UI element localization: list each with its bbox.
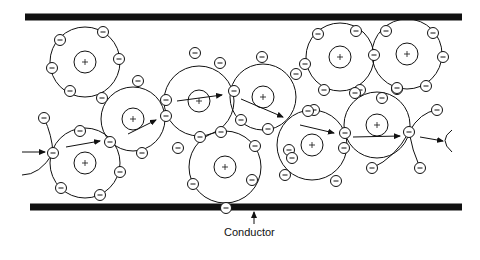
electron-flow-diagram: [0, 0, 480, 260]
electron: [381, 26, 392, 37]
electron: [188, 179, 199, 190]
electron: [190, 48, 201, 59]
electron: [215, 58, 226, 69]
electron: [236, 115, 247, 126]
electron: [392, 83, 403, 94]
electron: [247, 175, 258, 186]
electron: [340, 128, 351, 139]
electron: [331, 176, 342, 187]
electron: [39, 113, 50, 124]
electron: [65, 86, 76, 97]
electron: [303, 106, 314, 117]
electron: [404, 127, 415, 138]
electron: [367, 163, 378, 174]
electron: [421, 81, 432, 92]
electron: [55, 35, 66, 46]
electron: [432, 105, 443, 116]
electron: [250, 141, 261, 152]
free-electron-path: [22, 118, 53, 175]
flow-arrow: [353, 136, 400, 137]
free-electron-path: [372, 132, 409, 168]
flow-arrow: [66, 141, 100, 147]
electron: [350, 88, 361, 99]
electron: [377, 93, 388, 104]
electron: [291, 69, 302, 80]
electron: [105, 137, 116, 148]
electron: [415, 163, 426, 174]
electron: [97, 93, 108, 104]
partial-atom-arc: [445, 130, 452, 152]
electron: [313, 29, 324, 40]
electron: [56, 183, 67, 194]
electron: [216, 127, 227, 138]
electron: [95, 190, 106, 201]
electron: [221, 203, 232, 214]
flow-arrow: [420, 137, 443, 141]
electron: [263, 124, 274, 135]
electron: [229, 86, 240, 97]
electron: [161, 95, 172, 106]
electron: [47, 63, 58, 74]
electron: [280, 170, 291, 181]
electron: [257, 52, 268, 63]
atoms-layer: [50, 19, 442, 203]
electron: [319, 85, 330, 96]
electron: [114, 54, 125, 65]
conductor-walls: [25, 14, 462, 211]
conductor-label: Conductor: [224, 226, 275, 238]
electron: [48, 148, 59, 159]
electron: [75, 126, 86, 137]
electron: [133, 76, 144, 87]
electron: [287, 153, 298, 164]
electron: [300, 59, 311, 70]
atom: [164, 66, 234, 136]
bottom-wall: [30, 204, 462, 211]
flow-arrow: [300, 125, 334, 133]
electron: [115, 167, 126, 178]
electron: [173, 143, 184, 154]
electron: [339, 143, 350, 154]
atom: [344, 92, 410, 158]
electron: [351, 26, 362, 37]
electron: [195, 132, 206, 143]
electron: [369, 50, 380, 61]
electron: [161, 111, 172, 122]
electron: [438, 52, 449, 63]
top-wall: [25, 14, 462, 21]
electron: [428, 28, 439, 39]
electron: [98, 27, 109, 38]
electron: [137, 148, 148, 159]
